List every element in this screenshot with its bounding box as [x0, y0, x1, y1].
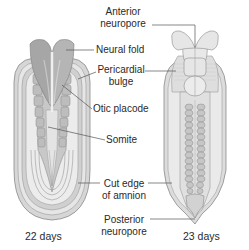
label-cut-edge-line1: Cut edge: [100, 178, 148, 189]
label-posterior-neuropore-line2: neuropore: [99, 226, 149, 237]
label-otic-placode: Otic placode: [93, 103, 149, 114]
embryo-diagram: Anterior neuropore Neural fold Pericardi…: [0, 0, 249, 250]
embryo-illustrations: [0, 0, 249, 250]
embryo-22-days: [14, 40, 90, 221]
label-cut-edge-of-amnion: Cut edge of amnion: [100, 178, 148, 201]
label-pericardial-bulge-line1: Pericardial: [97, 64, 145, 75]
label-anterior-neuropore: Anterior neuropore: [98, 6, 148, 29]
caption-22-days: 22 days: [25, 230, 62, 242]
label-neural-fold: Neural fold: [96, 44, 144, 55]
label-posterior-neuropore-line1: Posterior: [99, 214, 149, 225]
label-anterior-neuropore-line1: Anterior: [98, 6, 148, 17]
label-posterior-neuropore: Posterior neuropore: [99, 214, 149, 237]
label-pericardial-bulge-line2: bulge: [97, 76, 145, 87]
embryo-23-days: [164, 31, 226, 224]
label-pericardial-bulge: Pericardial bulge: [97, 64, 145, 87]
label-somite: Somite: [106, 134, 137, 145]
label-anterior-neuropore-line2: neuropore: [98, 18, 148, 29]
caption-23-days: 23 days: [183, 230, 220, 242]
label-cut-edge-line2: of amnion: [100, 190, 148, 201]
